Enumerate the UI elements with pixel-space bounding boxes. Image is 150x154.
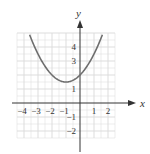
y-axis-label: y (75, 7, 81, 19)
y-tick-label: 4 (72, 42, 77, 52)
grid-lines (17, 33, 115, 138)
x-tick-label: 1 (92, 106, 97, 116)
axes: x y (12, 7, 145, 152)
x-tick-label: 2 (106, 106, 111, 116)
parabola-chart: x y −4−3−2−112431−1−2 (0, 0, 150, 154)
y-tick-label: −2 (66, 126, 76, 136)
y-tick-label: 1 (72, 84, 77, 94)
x-tick-label: −3 (31, 106, 41, 116)
y-tick-label: −1 (66, 112, 76, 122)
x-axis-arrow-icon (128, 100, 136, 106)
x-axis-label: x (139, 97, 145, 109)
x-tick-label: −4 (17, 106, 27, 116)
y-tick-label: 3 (72, 56, 77, 66)
y-axis-arrow-icon (77, 20, 83, 28)
x-tick-label: −2 (45, 106, 55, 116)
